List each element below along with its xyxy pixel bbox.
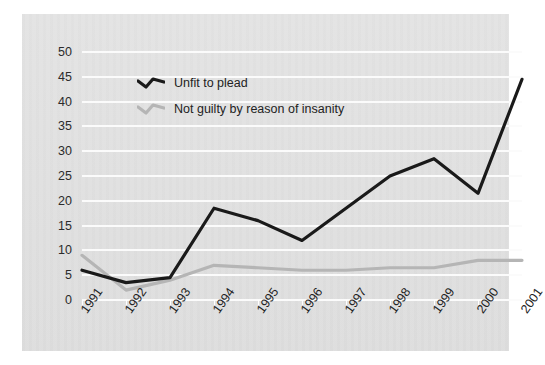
legend-label: Not guilty by reason of insanity: [174, 102, 344, 116]
y-tick-label-5: 5: [42, 269, 72, 282]
y-tick-label-40: 40: [42, 96, 72, 109]
y-tick-label-30: 30: [42, 145, 72, 158]
chart-legend: Unfit to pleadNot guilty by reason of in…: [137, 72, 387, 122]
y-tick-label-15: 15: [42, 220, 72, 233]
chart-panel: 05101520253035404550 1991199219931994199…: [22, 14, 509, 351]
legend-item-not-guilty-by-reason-of-insanity: Not guilty by reason of insanity: [137, 98, 344, 120]
legend-swatch-icon: [137, 75, 165, 91]
y-tick-label-35: 35: [42, 120, 72, 133]
y-tick-label-20: 20: [42, 195, 72, 208]
x-axis-tick-labels: 1991199219931994199519961997199819992000…: [82, 306, 522, 354]
legend-item-unfit-to-plead: Unfit to plead: [137, 72, 248, 94]
series-line-not-guilty-by-reason-of-insanity: [82, 255, 522, 290]
y-tick-label-25: 25: [42, 170, 72, 183]
x-tick-label-2001: 2001: [518, 285, 545, 316]
y-tick-label-50: 50: [42, 46, 72, 59]
legend-swatch-icon: [137, 101, 165, 117]
y-axis-tick-labels: 05101520253035404550: [44, 52, 76, 300]
legend-label: Unfit to plead: [174, 76, 248, 90]
y-tick-label-10: 10: [42, 244, 72, 257]
y-tick-label-45: 45: [42, 71, 72, 84]
y-tick-label-0: 0: [42, 294, 72, 307]
